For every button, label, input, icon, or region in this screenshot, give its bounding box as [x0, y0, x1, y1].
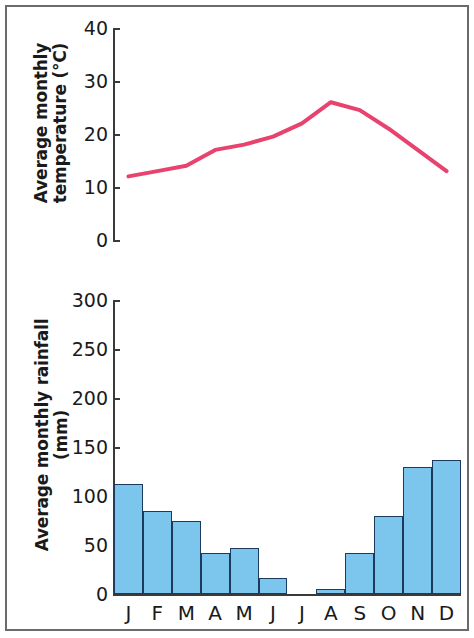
temperature-line [128, 102, 446, 176]
temperature-line-chart-plot [0, 0, 474, 250]
month-label: S [345, 601, 374, 625]
month-label: F [143, 601, 172, 625]
month-label: M [172, 601, 201, 625]
month-label: J [288, 601, 317, 625]
month-label: J [114, 601, 143, 625]
month-label: A [316, 601, 345, 625]
month-axis-labels: JFMAMJJASOND [0, 270, 474, 638]
climate-graph-figure: Average monthly temperature (°C) 40 30 2… [0, 0, 474, 638]
month-label: O [374, 601, 403, 625]
rainfall-chart-panel: Average monthly rainfall (mm) 300 250 20… [0, 270, 474, 638]
month-label: D [432, 601, 461, 625]
month-label: A [201, 601, 230, 625]
month-label: N [403, 601, 432, 625]
month-label: M [230, 601, 259, 625]
temperature-chart-panel: Average monthly temperature (°C) 40 30 2… [0, 0, 474, 250]
month-label: J [259, 601, 288, 625]
